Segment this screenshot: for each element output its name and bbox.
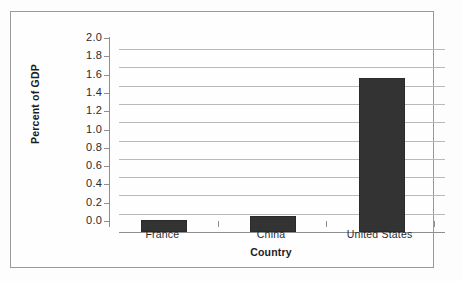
chart-page: 2.0 1.8 1.6 1.4 1.2 1.0 0.8 0.6 0.4 0.2 … <box>0 0 462 281</box>
ytick-label-1-2: 1.2 <box>58 104 102 116</box>
ytick-label-0-8: 0.8 <box>58 141 102 153</box>
ytick-mark-1-0 <box>104 130 110 131</box>
xtick-mark-0 <box>109 221 110 227</box>
gridline-1-8 <box>119 67 445 68</box>
ytick-mark-1-6 <box>104 75 110 76</box>
ytick-mark-0-4 <box>104 184 110 185</box>
ytick-label-1-4: 1.4 <box>58 86 102 98</box>
category-label-france: France <box>108 228 217 240</box>
plot-area <box>119 49 445 232</box>
gridline-2-0 <box>119 49 445 50</box>
ytick-mark-0-2 <box>104 203 110 204</box>
xtick-mark-1 <box>218 221 219 227</box>
ytick-mark-2-0 <box>104 38 110 39</box>
category-label-china: China <box>217 228 326 240</box>
ytick-label-group: 2.0 1.8 1.6 1.4 1.2 1.0 0.8 0.6 0.4 0.2 … <box>52 0 102 281</box>
xtick-mark-3 <box>434 221 435 227</box>
ytick-mark-1-4 <box>104 93 110 94</box>
ytick-label-0-4: 0.4 <box>58 177 102 189</box>
category-label-united-states: United States <box>325 228 434 240</box>
xtick-mark-2 <box>326 221 327 227</box>
ytick-mark-0-8 <box>104 148 110 149</box>
ytick-label-1-0: 1.0 <box>58 123 102 135</box>
ytick-label-1-6: 1.6 <box>58 68 102 80</box>
ytick-label-0-0: 0.0 <box>58 214 102 226</box>
ytick-label-2-0: 2.0 <box>58 31 102 43</box>
bar-united-states[interactable] <box>359 78 405 232</box>
ytick-label-0-2: 0.2 <box>58 196 102 208</box>
y-axis-title: Percent of GDP <box>29 54 41 154</box>
ytick-label-0-6: 0.6 <box>58 159 102 171</box>
ytick-mark-1-8 <box>104 56 110 57</box>
ytick-mark-1-2 <box>104 111 110 112</box>
ytick-label-1-8: 1.8 <box>58 49 102 61</box>
ytick-mark-0-6 <box>104 166 110 167</box>
x-axis-title: Country <box>108 246 434 258</box>
